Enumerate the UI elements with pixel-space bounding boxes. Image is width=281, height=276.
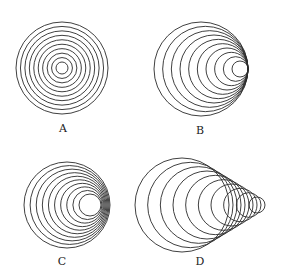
circle [20,26,103,109]
circle [154,22,248,116]
circle [73,190,102,219]
circle [43,49,82,88]
circle [36,169,108,241]
circle [25,31,99,105]
circle [56,62,68,74]
circle [67,187,103,223]
circle [223,57,248,82]
panel-d-label: D [196,255,205,268]
panel-b-circles [154,22,248,116]
circle [232,61,248,77]
circle [48,176,106,234]
concentric-circles-figure [0,0,281,276]
circle [197,44,248,95]
panel-c-circles [24,162,110,248]
panel-a-circles [16,22,108,114]
circle [38,44,86,92]
circle [42,173,107,238]
circle [171,31,248,108]
circle [206,48,248,90]
panel-d-circles [135,158,265,252]
circle [16,22,108,114]
circle [173,171,241,239]
panel-b-label: B [196,124,204,137]
circle [163,26,248,111]
panel-c-label: C [58,255,66,268]
circle [29,35,94,100]
panel-a-label: A [59,122,67,135]
circle [79,194,101,216]
circle [52,58,73,79]
